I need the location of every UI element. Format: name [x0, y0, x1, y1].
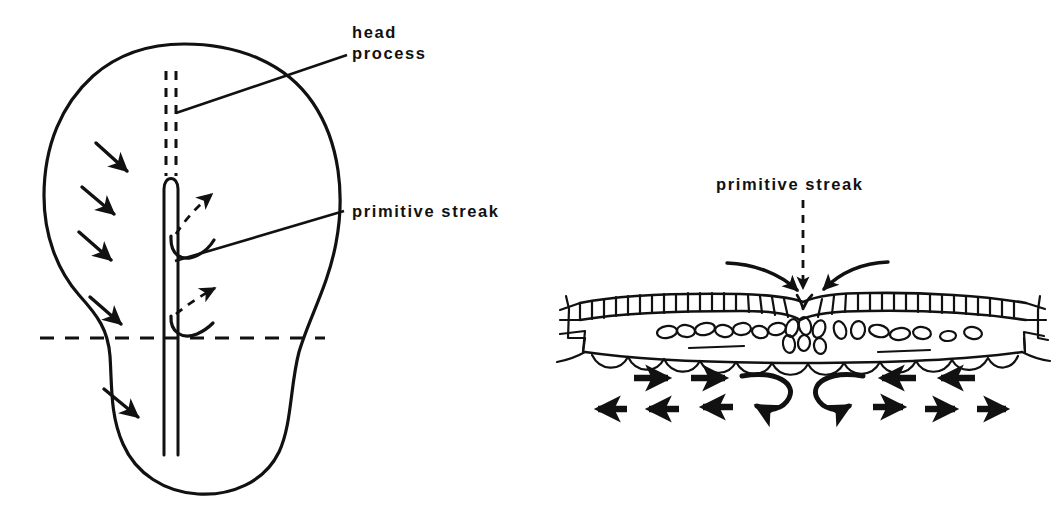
- ingressing-mesenchyme: [656, 316, 983, 355]
- embryo-outline: [44, 44, 340, 494]
- convergence-arrow-4: [90, 297, 121, 324]
- mesenchyme-stroke-right: [878, 350, 930, 352]
- convergence-arrows: [79, 143, 138, 417]
- convergence-arrow-1: [96, 143, 127, 171]
- cross-section-panel: primitive streak: [557, 175, 1050, 409]
- hypoblast-upper-contour: [585, 352, 1022, 363]
- epiblast-margin-left: [560, 296, 585, 352]
- ingression-dashed-arrow-upper: [176, 194, 212, 234]
- primitive-streak-leader-line: [175, 211, 344, 261]
- ingression-dashed-arrow-lower: [176, 288, 215, 314]
- hypoblast-layer: [557, 338, 1050, 375]
- head-process-label-line2: process: [352, 44, 427, 62]
- head-process-label-line1: head: [352, 23, 397, 41]
- diagram-canvas: head process primitive streak primitive …: [0, 0, 1057, 512]
- epiblast-layer: [560, 293, 1048, 352]
- convergence-arrow-3: [79, 232, 111, 260]
- section-converge-arrow-right: [824, 262, 888, 289]
- primitive-streak-label-right: primitive streak: [716, 175, 864, 193]
- epiblast-basal-surface: [580, 311, 1026, 320]
- epiblast-margin-right: [1024, 296, 1048, 352]
- surface-view-panel: head process primitive streak: [40, 23, 500, 494]
- primitive-streak-label-left: primitive streak: [352, 202, 500, 220]
- mesenchyme-stroke-left: [689, 346, 744, 348]
- flow-loop-left: [742, 375, 790, 410]
- head-process-leader-line: [176, 55, 347, 113]
- figure-root: head process primitive streak primitive …: [0, 0, 1057, 512]
- epiblast-apical-surface: [580, 293, 1026, 303]
- convergence-arrow-2: [82, 187, 114, 214]
- flow-arrows: [598, 375, 1006, 410]
- hypoblast-margin-right: [1022, 338, 1050, 361]
- convergence-arrow-5: [104, 389, 138, 417]
- flow-loop-right: [816, 375, 863, 410]
- hypoblast-margin-left: [557, 338, 585, 362]
- section-converge-arrow-left: [727, 263, 797, 290]
